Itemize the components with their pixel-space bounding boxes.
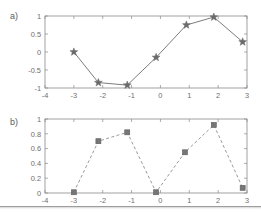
series-line [74,125,243,192]
x-tick-label: 3 [245,196,249,203]
footer-divider [0,206,261,209]
data-point-marker [182,150,187,155]
plot-panel-b: b) -4-3-2-1012300.20.40.60.81 [0,105,261,203]
data-point-marker [211,122,216,127]
y-tick-label: 1 [37,115,41,124]
footer-divider-shadow [0,207,261,209]
data-point-marker [125,130,130,135]
x-tick-label: 2 [216,91,220,100]
y-tick-label: 0.6 [31,144,41,153]
x-tick-label: 1 [187,196,191,203]
figure-container: a) -4-3-2-10123-1-0.500.51 b) -4-3-2-101… [0,0,261,215]
y-tick-label: 0 [37,48,41,57]
plot-frame [45,119,247,193]
data-point-marker [70,48,78,55]
x-tick-label: 0 [158,91,162,100]
x-tick-label: -2 [99,91,106,100]
x-tick-label: 1 [187,91,191,100]
x-tick-label: 2 [216,196,220,203]
y-tick-label: 0.8 [31,130,41,139]
plot-a-canvas: -4-3-2-10123-1-0.500.51 [0,0,261,102]
y-tick-label: 0.4 [31,159,41,168]
plot-b-canvas: -4-3-2-1012300.20.40.60.81 [0,105,261,203]
x-tick-label: -3 [71,196,78,203]
y-tick-label: 1 [37,12,41,21]
y-tick-label: 0.5 [31,30,41,39]
x-tick-label: 3 [245,91,249,100]
x-tick-label: -4 [42,91,49,100]
data-point-marker [96,139,101,144]
plot-panel-a: a) -4-3-2-10123-1-0.500.51 [0,0,261,102]
x-tick-label: -3 [71,91,78,100]
x-tick-label: -1 [128,196,135,203]
x-tick-label: 0 [158,196,162,203]
y-tick-label: 0.2 [31,174,41,183]
y-tick-label: -1 [34,84,41,93]
data-point-marker [240,185,245,190]
x-tick-label: -2 [99,196,106,203]
series-line [74,17,243,85]
x-tick-label: -1 [128,91,135,100]
data-point-marker [154,190,159,195]
y-tick-label: 0 [37,189,41,198]
x-tick-label: -4 [42,196,49,203]
y-tick-label: -0.5 [28,66,41,75]
data-point-marker [71,190,76,195]
